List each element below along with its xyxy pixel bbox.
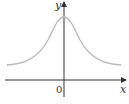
function-graph: y 0 x: [0, 0, 129, 104]
origin-label: 0: [56, 84, 62, 95]
y-axis-label: y: [54, 0, 62, 12]
x-axis-label: x: [120, 83, 127, 96]
